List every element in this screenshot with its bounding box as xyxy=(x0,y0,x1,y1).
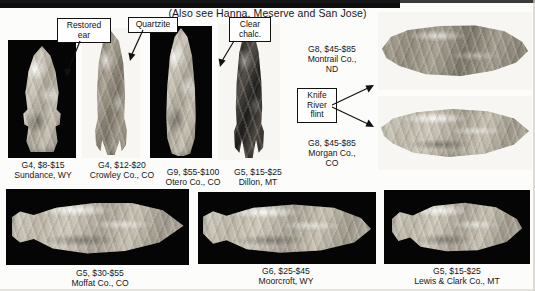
caption-montrail-co-nd: G8, $45-$85 Montrail Co., ND xyxy=(288,44,376,75)
caption-locality: Moffat Co., CO xyxy=(52,278,148,288)
specimen-photo-dillon-mt xyxy=(218,24,280,160)
flake-texture xyxy=(158,28,204,156)
flake-texture xyxy=(89,31,133,155)
flake-texture xyxy=(392,198,522,256)
caption-dillon-mt: G5, $15-$25 Dillon, MT xyxy=(218,167,298,187)
flake-texture xyxy=(203,200,371,256)
stone-body xyxy=(382,22,528,80)
caption-grade-price: G5, $15-$25 xyxy=(218,167,298,177)
callout-line: Quartzite xyxy=(132,20,174,30)
callout-line: ear xyxy=(61,31,107,41)
artifact-plate-page: (Also see Hanna, Meserve and San Jose) xyxy=(0,0,535,291)
specimen-photo-otero-co xyxy=(150,26,212,158)
callout-line: flint xyxy=(301,110,333,120)
specimen-photo-bottom-left xyxy=(6,189,189,265)
flake-texture xyxy=(382,22,528,80)
stone-body xyxy=(12,197,184,257)
specimen-photo-montrail-co-nd xyxy=(378,12,532,90)
caption-locality: Moorcroft, WY xyxy=(240,276,332,286)
caption-grade-price: G4, $8-$15 xyxy=(0,160,86,170)
caption-moorcroft-wy: G6, $25-$45 Moorcroft, WY xyxy=(240,266,332,286)
caption-locality-line2: CO xyxy=(288,158,376,168)
caption-locality: Lewis & Clark Co., MT xyxy=(388,276,526,286)
caption-lewis-clark-mt: G5, $15-$25 Lewis & Clark Co., MT xyxy=(388,266,526,286)
specimen-photo-sundance-wy xyxy=(8,40,76,158)
callout-line: chalc. xyxy=(233,30,267,40)
stone-body xyxy=(227,26,271,158)
specimen-photo-morgan-co-co xyxy=(378,96,532,170)
specimen-photo-lewis-clark-mt xyxy=(384,190,530,264)
caption-locality-line1: Montrail Co., xyxy=(288,54,376,64)
callout-arrow-knife-river-lower xyxy=(332,104,378,130)
caption-locality: Sundance, WY xyxy=(0,170,86,180)
caption-morgan-co-co: G8, $45-$85 Morgan Co., CO xyxy=(288,138,376,169)
callout-arrow-knife-river-upper xyxy=(332,83,378,109)
caption-grade-price: G8, $45-$85 xyxy=(288,138,376,148)
caption-grade-price: G5, $15-$25 xyxy=(388,266,526,276)
caption-grade-price: G6, $25-$45 xyxy=(240,266,332,276)
stone-body xyxy=(89,31,133,155)
callout-clear-chalc: Clear chalc. xyxy=(229,17,271,42)
caption-grade-price: G8, $45-$85 xyxy=(288,44,376,54)
specimen-photo-crowley-co xyxy=(82,28,140,158)
caption-grade-price: G5, $30-$55 xyxy=(52,268,148,278)
flake-texture xyxy=(381,107,529,159)
caption-bottom-left: G5, $30-$55 Moffat Co., CO xyxy=(52,268,148,288)
stone-body xyxy=(158,28,204,156)
stone-body xyxy=(392,198,522,256)
flake-texture xyxy=(12,197,184,257)
caption-locality: Dillon, MT xyxy=(218,177,298,187)
stone-body xyxy=(203,200,371,256)
scan-artifact-edge-top xyxy=(0,0,535,3)
flake-texture xyxy=(227,26,271,158)
caption-locality-line2: ND xyxy=(288,64,376,74)
stone-body xyxy=(16,46,68,152)
specimen-photo-moorcroft-wy xyxy=(198,192,376,264)
callout-knife-river-flint: Knife River flint xyxy=(297,88,337,123)
callout-quartzite: Quartzite xyxy=(128,17,178,33)
flake-texture xyxy=(16,46,68,152)
callout-restored-ear: Restored ear xyxy=(57,18,111,43)
caption-sundance-wy: G4, $8-$15 Sundance, WY xyxy=(0,160,86,180)
stone-body xyxy=(381,107,529,159)
caption-locality-line1: Morgan Co., xyxy=(288,148,376,158)
